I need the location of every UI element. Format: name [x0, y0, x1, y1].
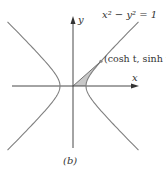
equation-label: x² − y² = 1 [102, 9, 157, 20]
figure-caption: (b) [63, 155, 77, 166]
hyperbola-diagram: x² − y² = 1 (cosh t, sinh t) x y (b) [0, 0, 166, 172]
y-axis-label: y [77, 14, 84, 25]
x-axis-arrow-icon [131, 84, 139, 89]
point-label: (cosh t, sinh t) [104, 53, 166, 64]
x-axis-label: x [132, 72, 138, 83]
point-marker [99, 60, 102, 63]
y-axis-arrow-icon [71, 16, 76, 24]
